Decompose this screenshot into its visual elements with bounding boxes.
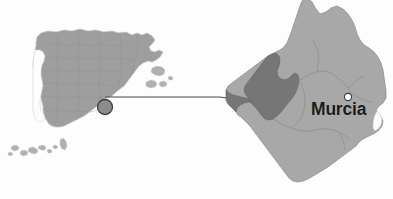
spain-mainland-shape bbox=[33, 29, 163, 127]
locator-map-figure: Murcia bbox=[0, 0, 393, 199]
spain-locator-map bbox=[8, 29, 173, 156]
murcia-region-map bbox=[226, 0, 386, 182]
locator-circle-marker bbox=[98, 100, 113, 115]
city-label-murcia: Murcia bbox=[311, 101, 366, 119]
canary-islands-shape bbox=[8, 138, 67, 156]
balearic-islands-shape bbox=[146, 66, 173, 88]
figure-caption bbox=[5, 188, 123, 195]
